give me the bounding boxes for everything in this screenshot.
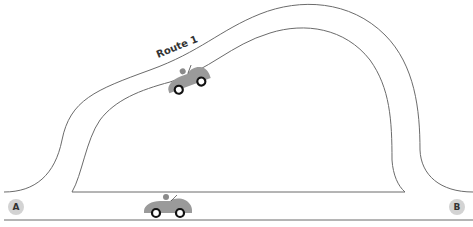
car-icon [144,194,192,217]
route-1-label: Route 1 [155,33,200,60]
route1-outer-edge [4,4,473,192]
car-icon [163,60,212,97]
route1-inner-edge [72,28,405,192]
node-b-label: B [454,202,461,212]
node-a-label: A [13,202,20,212]
route-diagram: Route 1 A B [0,0,473,227]
node-a: A [8,199,24,215]
node-b: B [449,199,465,215]
